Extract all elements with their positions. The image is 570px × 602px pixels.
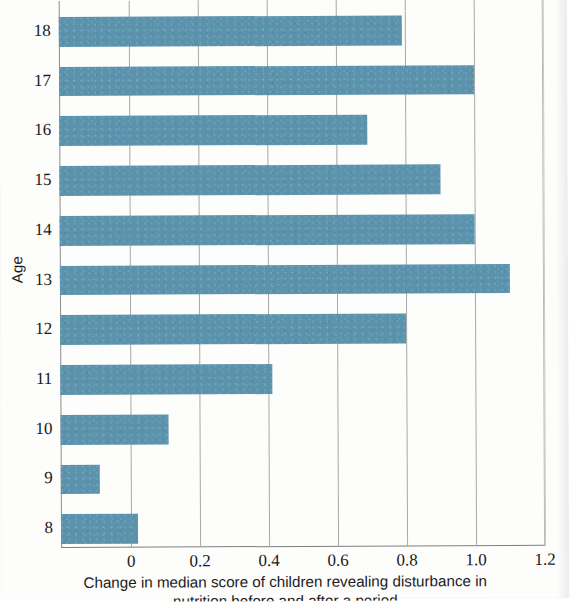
x-tick-label-0.4: 0.4	[244, 551, 294, 571]
bar-row-age-9	[61, 462, 545, 494]
caption-line-1: Change in median score of children revea…	[83, 572, 487, 591]
y-tick-label-15: 15	[5, 170, 51, 190]
bar-row-age-8	[61, 512, 545, 544]
y-tick-label-18: 18	[5, 21, 51, 41]
y-tick-label-17: 17	[5, 71, 51, 91]
bar-row-age-16	[59, 114, 543, 146]
caption-line-2: nutrition before and after a period	[1, 590, 569, 602]
y-tick-label-11: 11	[6, 369, 52, 389]
bar-row-age-13	[60, 263, 544, 295]
bar-row-age-17	[59, 65, 543, 97]
y-tick-label-14: 14	[6, 220, 52, 240]
x-tick-label-1.2: 1.2	[520, 550, 570, 570]
bar-age-12[interactable]	[60, 314, 406, 345]
bar-age-11[interactable]	[60, 364, 272, 395]
x-tick-label-0.2: 0.2	[175, 551, 225, 571]
y-tick-label-16: 16	[5, 120, 51, 140]
scan-skew-wrapper: Age 89101112131415161718 00.20.40.60.81.…	[0, 0, 569, 600]
y-tick-label-9: 9	[7, 468, 53, 488]
bar-row-age-15	[59, 164, 543, 196]
bar-age-15[interactable]	[59, 164, 440, 195]
x-tick-label-0.6: 0.6	[313, 551, 363, 571]
bar-age-18[interactable]	[59, 15, 402, 46]
bar-age-17[interactable]	[59, 65, 474, 97]
bar-age-13[interactable]	[60, 264, 510, 296]
bar-age-14[interactable]	[60, 214, 475, 246]
bar-row-age-12	[60, 313, 544, 345]
y-tick-label-10: 10	[7, 419, 53, 439]
bar-row-age-18	[59, 15, 543, 47]
y-tick-label-12: 12	[6, 319, 52, 339]
x-tick-label-1.0: 1.0	[451, 550, 501, 570]
bar-age-10[interactable]	[61, 414, 169, 444]
y-tick-label-8: 8	[7, 518, 53, 538]
bar-row-age-10	[61, 413, 545, 445]
bar-age-16[interactable]	[59, 115, 367, 146]
plot-area	[59, 0, 545, 548]
bar-age-8[interactable]	[61, 514, 138, 544]
x-tick-label-0.8: 0.8	[382, 550, 432, 570]
bar-row-age-14	[60, 214, 544, 246]
bar-row-age-11	[60, 363, 544, 395]
bar-age-9[interactable]	[61, 464, 100, 494]
x-axis-caption: Change in median score of children revea…	[1, 571, 569, 602]
x-tick-label-0: 0	[106, 552, 156, 572]
y-tick-label-13: 13	[6, 270, 52, 290]
